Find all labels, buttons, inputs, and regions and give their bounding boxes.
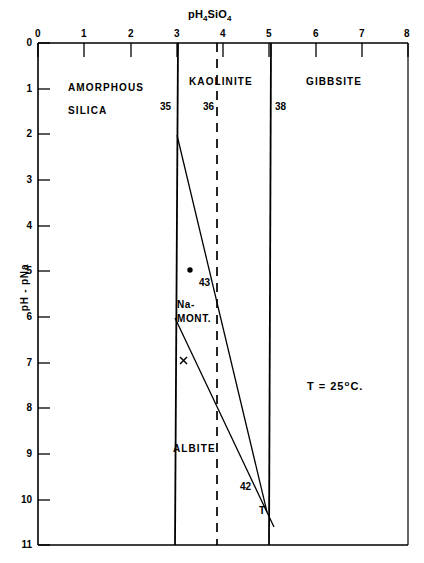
x-tick-label-5: 5 [266,28,272,39]
x-tick-label-1: 1 [81,28,87,39]
y-tick-label-10: 10 [7,494,32,505]
field-label-namont-line1: Na- [177,298,211,312]
field-label-na-montmorillonite: Na- MONT. [177,298,211,326]
y-tick-label-9: 9 [10,448,32,459]
x-tick-label-2: 2 [128,28,134,39]
y-tick-label-7: 7 [10,357,32,368]
x-tick-label-0: 0 [35,28,41,39]
field-label-albite: ALBITE [173,443,216,454]
dot-data-point [187,267,192,272]
y-tick-label-8: 8 [10,402,32,413]
y-tick-label-1: 1 [10,83,32,94]
boundary-number-38: 38 [275,101,286,112]
x-axis-ticks [38,43,408,57]
field-label-amorphous-line2: SILICA [68,99,144,122]
y-axis-ticks [38,43,50,545]
y-tick-label-11: 11 [7,539,32,550]
boundary-line-38 [269,43,271,545]
boundary-number-43: 43 [199,277,210,288]
boundary-number-42: 42 [240,481,251,492]
field-label-namont-line2: MONT. [177,312,211,326]
boundary-number-36: 36 [203,101,214,112]
x-tick-label-4: 4 [220,28,226,39]
y-tick-label-2: 2 [10,128,32,139]
boundary-number-35: 35 [160,101,171,112]
field-label-kaolinite: KAOLINITE [189,76,253,87]
boundary-line-42 [175,318,274,527]
y-tick-label-6: 6 [10,311,32,322]
field-label-amorphous-silica: AMORPHOUS SILICA [68,76,144,122]
x-data-point [180,357,187,364]
y-tick-label-5: 5 [10,265,32,276]
temperature-note: T = 25oC. [307,379,363,392]
y-tick-label-4: 4 [10,220,32,231]
x-tick-label-3: 3 [174,28,180,39]
y-tick-label-0: 0 [10,37,32,48]
field-label-amorphous-line1: AMORPHOUS [68,76,144,99]
triple-point-label-t: T [259,505,265,516]
field-label-gibbsite: GIBBSITE [306,76,362,87]
boundary-line-35 [175,43,178,545]
degree-symbol: o [345,379,351,388]
x-tick-label-8: 8 [404,28,410,39]
phase-boundaries [175,43,274,545]
phase-diagram-figure: pH4SiO4 pH - pNa [0,0,424,563]
x-tick-label-6: 6 [313,28,319,39]
y-tick-label-3: 3 [10,174,32,185]
x-tick-label-7: 7 [359,28,365,39]
